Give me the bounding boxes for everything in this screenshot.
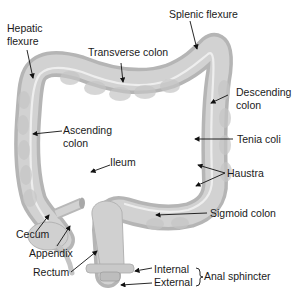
label-hepatic-flexure-line1: Hepatic — [7, 22, 43, 34]
label-descending-colon-line1: Descending — [236, 86, 291, 98]
external-sphincter-shape — [100, 272, 120, 281]
label-tenia-coli: Tenia coli — [237, 133, 281, 145]
label-hepatic-flexure-line2: flexure — [7, 35, 39, 47]
label-splenic-flexure: Splenic flexure — [169, 8, 238, 20]
label-cecum: Cecum — [16, 228, 49, 240]
label-external: External — [154, 276, 193, 288]
label-transverse-colon: Transverse colon — [88, 46, 168, 58]
label-rectum: Rectum — [33, 266, 69, 278]
label-ileum: Ileum — [110, 156, 136, 168]
label-sigmoid-colon: Sigmoid colon — [210, 207, 276, 219]
label-anal-sphincter: Anal sphincter — [204, 270, 271, 282]
anal-sphincter-brace — [196, 268, 203, 286]
label-ascending-colon-line2: colon — [63, 137, 88, 149]
label-appendix: Appendix — [29, 247, 73, 259]
label-ascending-colon-line1: Ascending — [63, 124, 112, 136]
label-descending-colon-line2: colon — [236, 99, 261, 111]
label-internal: Internal — [154, 263, 189, 275]
label-haustra: Haustra — [227, 167, 264, 179]
